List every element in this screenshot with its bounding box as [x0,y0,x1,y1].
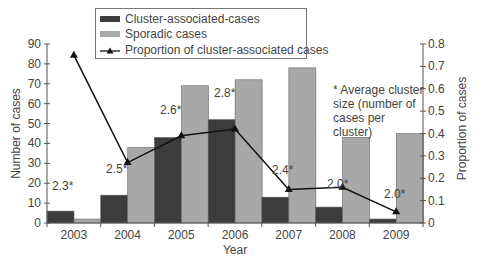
legend-label-cluster: Cluster-associated-cases [125,12,260,26]
cluster-size-annotation: 2.5* [106,162,128,176]
x-tick-label: 2006 [222,228,249,242]
y-tick-label: 40 [28,136,42,150]
x-tick-label: 2003 [61,228,88,242]
legend-label-proportion: Proportion of cluster-associated cases [125,43,328,57]
note-line-2: size (number of [333,97,425,111]
bar-sporadic [74,219,101,223]
bar-cluster [262,197,289,223]
bar-sporadic [235,80,262,223]
note-line-1: * Average cluster [333,83,425,97]
y-right-tick-label: 0.7 [428,59,445,73]
bar-cluster [101,195,128,223]
bar-sporadic [128,147,155,223]
line-triangle-marker-icon [100,45,120,55]
y-right-tick-label: 0 [428,216,435,230]
y-right-tick-label: 0.1 [428,194,445,208]
cluster-size-annotation: 2.0* [327,177,349,191]
bar-cluster [208,120,235,223]
x-tick-label: 2005 [168,228,195,242]
cluster-size-annotation: 2.6* [160,103,182,117]
cluster-size-note: * Average cluster size (number of cases … [333,83,425,139]
y-tick-label: 0 [34,216,41,230]
bar-cluster [369,219,396,223]
y-tick-label: 60 [28,97,42,111]
triangle-marker-icon [70,51,78,58]
y-right-axis-title: Proportion of cases [455,77,469,180]
cluster-size-annotation: 2.3* [52,179,74,193]
y-right-tick-label: 0.6 [428,82,445,96]
y-tick-label: 50 [28,117,42,131]
y-right-tick-label: 0.4 [428,127,445,141]
y-tick-label: 70 [28,77,42,91]
x-tick-label: 2007 [275,228,302,242]
legend-label-sporadic: Sporadic cases [125,27,207,41]
bar-cluster [316,207,343,223]
bar-sporadic [289,68,316,223]
y-right-tick-label: 0.5 [428,104,445,118]
y-right-tick-label: 0.3 [428,149,445,163]
bar-cluster [154,137,181,223]
sporadic-swatch-icon [100,31,120,37]
cluster-size-annotation: 2.0* [384,187,406,201]
x-tick-label: 2008 [329,228,356,242]
y-axis-title: Number of cases [9,88,23,179]
legend-item-proportion: Proportion of cluster-associated cases [100,42,302,58]
y-tick-label: 80 [28,57,42,71]
bar-sporadic [181,86,208,223]
cluster-size-annotation: 2.8* [214,86,236,100]
y-tick-label: 10 [28,196,42,210]
bar-sporadic [396,134,423,224]
chart-legend: Cluster-associated-cases Sporadic cases … [95,8,307,59]
bar-cluster [47,211,74,223]
x-tick-label: 2004 [114,228,141,242]
cluster-swatch-icon [100,16,120,22]
legend-item-cluster: Cluster-associated-cases [100,11,302,27]
y-tick-label: 90 [28,37,42,51]
x-tick-label: 2009 [383,228,410,242]
legend-item-sporadic: Sporadic cases [100,27,302,43]
y-tick-label: 30 [28,156,42,170]
cluster-size-annotation: 2.4* [272,163,294,177]
note-line-3: cases per cluster) [333,111,425,139]
x-axis-title: Year [223,243,247,257]
y-right-tick-label: 0.8 [428,37,445,51]
y-tick-label: 20 [28,176,42,190]
y-right-tick-label: 0.2 [428,171,445,185]
